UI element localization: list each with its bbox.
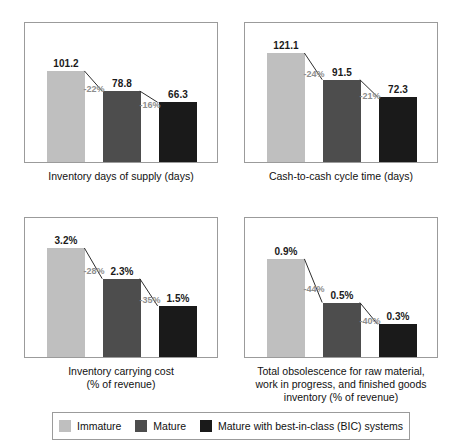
delta-label-2: -16%: [130, 100, 170, 110]
panel-caption: Inventory days of supply (days): [18, 170, 224, 183]
bar-mature: [103, 279, 141, 357]
chart-panel-inventory-days-of-supply: 101.2 78.8 66.3 -22% -16% Inventory days…: [18, 22, 224, 183]
chart-panel-cash-to-cash-cycle-time: 121.1 91.5 72.3 -24% -21% Cash-to-cash c…: [238, 22, 444, 183]
bar-bic: [379, 97, 417, 162]
delta-label-1: -44%: [294, 284, 334, 294]
bar-immature: [47, 248, 85, 357]
delta-label-1: -22%: [74, 84, 114, 94]
delta-label-2: -40%: [350, 316, 390, 326]
legend-label-bic: Mature with best-in-class (BIC) systems: [218, 420, 403, 432]
value-label-immature: 121.1: [258, 40, 314, 51]
bar-mature: [323, 303, 361, 358]
panel-caption: Total obsolescence for raw material,work…: [238, 365, 444, 404]
value-label-bic: 66.3: [150, 89, 206, 100]
panel-caption: Cash-to-cash cycle time (days): [238, 170, 444, 183]
legend-label-mature: Mature: [153, 420, 186, 432]
bar-bic: [159, 102, 197, 162]
bar-bic: [379, 324, 417, 357]
delta-label-2: -35%: [130, 295, 170, 305]
legend-swatch-bic: [200, 420, 212, 432]
value-label-immature: 3.2%: [38, 235, 94, 246]
legend-item-mature: Mature: [135, 420, 186, 432]
bar-bic: [159, 306, 197, 357]
chart-panel-grid: 101.2 78.8 66.3 -22% -16% Inventory days…: [0, 0, 453, 400]
bar-immature: [267, 259, 305, 357]
plot-area: 121.1 91.5 72.3 -24% -21%: [244, 22, 438, 163]
delta-label-1: -28%: [74, 266, 114, 276]
chart-panel-total-obsolescence: 0.9% 0.5% 0.3% -44% -40% Total obsolesce…: [238, 217, 444, 404]
legend-item-immature: Immature: [59, 420, 121, 432]
value-label-immature: 0.9%: [258, 246, 314, 257]
legend-swatch-mature: [135, 420, 147, 432]
chart-panel-inventory-carrying-cost: 3.2% 2.3% 1.5% -28% -35% Inventory carry…: [18, 217, 224, 391]
delta-label-2: -21%: [350, 91, 390, 101]
plot-area: 3.2% 2.3% 1.5% -28% -35%: [24, 217, 218, 358]
chart-legend: Immature Mature Mature with best-in-clas…: [52, 412, 410, 440]
legend-label-immature: Immature: [77, 420, 121, 432]
panel-caption: Inventory carrying cost(% of revenue): [18, 365, 224, 391]
value-label-immature: 101.2: [38, 58, 94, 69]
legend-swatch-immature: [59, 420, 71, 432]
delta-label-1: -24%: [294, 69, 334, 79]
plot-area: 101.2 78.8 66.3 -22% -16%: [24, 22, 218, 163]
legend-item-bic: Mature with best-in-class (BIC) systems: [200, 420, 403, 432]
plot-area: 0.9% 0.5% 0.3% -44% -40%: [244, 217, 438, 358]
